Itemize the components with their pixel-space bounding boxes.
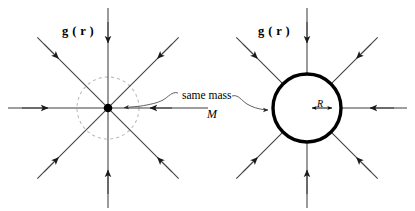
callout-leader-left bbox=[124, 93, 178, 108]
gravitational-field-diagram: g ( r ) g ( r ) same mass M R bbox=[0, 0, 415, 211]
field-line-left-45deg-arrow bbox=[158, 44, 173, 59]
field-line-left-135deg-arrow bbox=[44, 44, 59, 59]
field-line-right-135deg-arrow bbox=[243, 44, 258, 59]
field-line-left-315deg-arrow bbox=[158, 158, 173, 173]
field-label-right: g ( r ) bbox=[258, 25, 290, 38]
mass-symbol-label: M bbox=[207, 108, 217, 120]
point-mass-dot bbox=[104, 104, 113, 113]
field-label-left-text: g ( r ) bbox=[62, 24, 94, 38]
same-mass-label-text: same mass bbox=[182, 89, 232, 101]
field-line-left-225deg-arrow bbox=[44, 158, 59, 173]
field-label-left: g ( r ) bbox=[62, 25, 94, 38]
radius-label: R bbox=[317, 99, 323, 109]
same-mass-label: same mass bbox=[182, 90, 232, 102]
point-mass-panel bbox=[8, 8, 208, 208]
field-line-right-45deg-arrow bbox=[357, 44, 372, 59]
radius-label-text: R bbox=[317, 98, 323, 109]
field-line-right-315deg-arrow bbox=[357, 158, 372, 173]
field-label-right-text: g ( r ) bbox=[258, 24, 290, 38]
mass-symbol-text: M bbox=[207, 107, 217, 121]
callout-leader-right bbox=[232, 96, 268, 110]
field-line-right-225deg-arrow bbox=[243, 158, 258, 173]
